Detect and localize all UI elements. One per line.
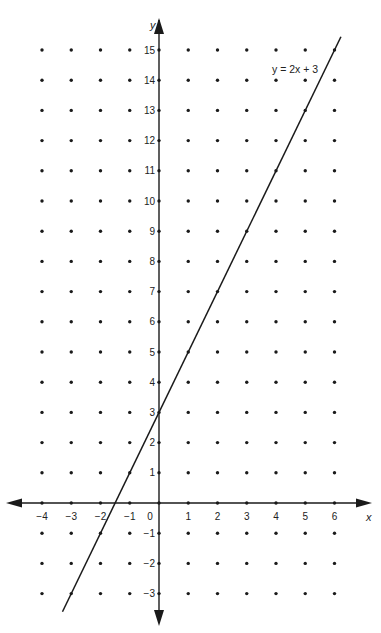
grid-dot [216, 139, 219, 142]
grid-dot [333, 169, 336, 172]
grid-dot [99, 350, 102, 353]
grid-dot [245, 139, 248, 142]
grid-dot [274, 592, 277, 595]
grid-dot [304, 441, 307, 444]
grid-dot [304, 260, 307, 263]
grid-dot [187, 169, 190, 172]
y-tick-label: 1 [149, 467, 155, 478]
x-tick-label: 2 [215, 511, 221, 522]
y-tick-label: 9 [149, 226, 155, 237]
grid-dot [274, 48, 277, 51]
grid-dot [216, 230, 219, 233]
grid-dot [40, 48, 43, 51]
grid-dot [304, 199, 307, 202]
y-tick-label: 4 [149, 377, 155, 388]
grid-dot [304, 139, 307, 142]
grid-dot [70, 169, 73, 172]
equation-label: y = 2x + 3 [272, 63, 318, 75]
grid-dot [99, 79, 102, 82]
y-tick-label: 5 [149, 347, 155, 358]
grid-dot [40, 532, 43, 535]
y-tick-label: 13 [144, 105, 156, 116]
grid-dot [99, 411, 102, 414]
grid-dot [187, 381, 190, 384]
grid-dot [274, 411, 277, 414]
grid-dot [128, 139, 131, 142]
x-tick-label: 3 [244, 511, 250, 522]
y-tick-label: 11 [145, 165, 156, 176]
y-tick-label: −2 [144, 558, 156, 569]
grid-dot [333, 260, 336, 263]
grid-dot [99, 562, 102, 565]
grid-dot [304, 169, 307, 172]
grid-dot [99, 199, 102, 202]
grid-dot [245, 592, 248, 595]
grid-dot [333, 79, 336, 82]
grid-dot [128, 109, 131, 112]
grid-dot [245, 290, 248, 293]
grid-dot [70, 230, 73, 233]
grid-dot [187, 199, 190, 202]
grid-dot [70, 139, 73, 142]
grid-dot [274, 562, 277, 565]
grid-dot [333, 441, 336, 444]
grid-dot [333, 381, 336, 384]
grid-dot [216, 411, 219, 414]
grid-dot [187, 290, 190, 293]
grid-dot [187, 139, 190, 142]
grid-dot [245, 260, 248, 263]
grid-dot [70, 471, 73, 474]
grid-dot [187, 562, 190, 565]
grid-dot [99, 230, 102, 233]
grid-dot [70, 260, 73, 263]
grid-dot [274, 290, 277, 293]
x-tick-label: 1 [185, 511, 191, 522]
grid-dot [216, 441, 219, 444]
y-tick-label: 8 [149, 256, 155, 267]
grid-dot [245, 320, 248, 323]
grid-dot [245, 562, 248, 565]
grid-dot [70, 199, 73, 202]
grid-dot [99, 441, 102, 444]
grid-dot [40, 199, 43, 202]
grid-dot [245, 381, 248, 384]
x-axis-label: x [365, 511, 372, 523]
y-tick-label: 6 [149, 316, 155, 327]
grid-dot [274, 441, 277, 444]
grid-dot [128, 441, 131, 444]
grid-dot [70, 381, 73, 384]
grid-dot [40, 139, 43, 142]
grid-dot [304, 320, 307, 323]
grid-dot [40, 350, 43, 353]
grid-dot [99, 320, 102, 323]
grid-dot [40, 592, 43, 595]
grid-dot [245, 48, 248, 51]
grid-dot [187, 471, 190, 474]
grid-dot [187, 260, 190, 263]
grid-dot [128, 199, 131, 202]
grid-dot [216, 592, 219, 595]
grid-dot [99, 260, 102, 263]
grid-dot [128, 230, 131, 233]
grid-dot [333, 411, 336, 414]
grid-dot [99, 471, 102, 474]
x-tick-label: −4 [36, 511, 48, 522]
grid-dot [128, 562, 131, 565]
grid-dot [245, 79, 248, 82]
grid-dot [333, 532, 336, 535]
grid-dot [70, 532, 73, 535]
x-tick-label: −2 [95, 511, 107, 522]
grid-dot [40, 290, 43, 293]
x-tick-label: 5 [302, 511, 308, 522]
x-tick-label: −3 [66, 511, 78, 522]
grid-dot [128, 381, 131, 384]
y-tick-label: 10 [144, 196, 156, 207]
grid-dot [99, 381, 102, 384]
grid-dot [70, 290, 73, 293]
grid-dot [40, 230, 43, 233]
grid-dot [187, 79, 190, 82]
grid-dot [274, 230, 277, 233]
grid-dot [216, 260, 219, 263]
grid-dot [274, 79, 277, 82]
grid-dot [274, 381, 277, 384]
